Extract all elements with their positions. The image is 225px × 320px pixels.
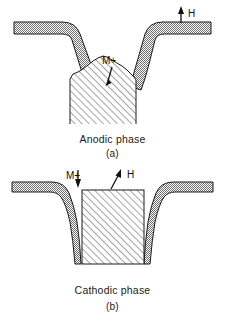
label-h-anodic: H xyxy=(188,8,195,19)
h-arrow-a xyxy=(178,6,184,23)
panel-b-drawing xyxy=(0,160,225,285)
panel-anodic-phase: Anodic phase (a) M+ H xyxy=(0,0,225,165)
label-m-plus-cathodic: M+ xyxy=(66,170,80,181)
label-m-plus-anodic: M+ xyxy=(102,55,116,66)
panel-a-caption: Anodic phase xyxy=(0,133,225,145)
substrate-left-b xyxy=(12,182,81,264)
panel-b-subcaption: (b) xyxy=(0,301,225,312)
panel-b-caption: Cathodic phase xyxy=(0,284,225,296)
panel-cathodic-phase: Cathodic phase (b) M+ H xyxy=(0,160,225,320)
panel-a-drawing xyxy=(0,0,225,132)
h-arrow-b xyxy=(111,169,121,189)
substrate-right-a xyxy=(129,22,211,90)
figure-container: Anodic phase (a) M+ H xyxy=(0,0,225,320)
trench-fill-b xyxy=(82,190,144,264)
panel-a-subcaption: (a) xyxy=(0,148,225,159)
label-h-cathodic: H xyxy=(127,169,134,180)
substrate-right-b xyxy=(144,182,213,264)
